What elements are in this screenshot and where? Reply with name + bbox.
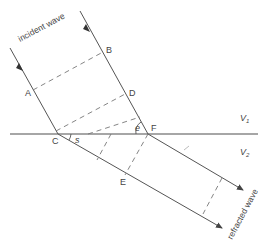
incident-wavefronts: [33, 52, 140, 134]
refracted-ray-lower: [58, 134, 222, 228]
refracted-wave-label: refracted wave: [225, 187, 260, 241]
label-f: F: [151, 123, 157, 133]
label-e: E: [120, 177, 126, 187]
incident-wave-label: incident wave: [16, 11, 66, 44]
angle-e-label: e: [135, 123, 140, 133]
velocity-v1-label: V1: [240, 113, 249, 124]
incident-ray-right: [80, 11, 148, 134]
label-d: D: [129, 88, 136, 98]
velocity-v2-label: V2: [240, 147, 250, 158]
arrow-icon: [16, 63, 23, 71]
incident-ray-left: [10, 48, 58, 134]
angle-s-label: s: [75, 135, 80, 145]
refracted-wavefronts: [97, 134, 222, 214]
angle-s-arc: [69, 134, 71, 140]
label-a: A: [25, 88, 31, 98]
refraction-diagram: A B C D E F e s V1 V2 incident wave refr…: [0, 0, 265, 246]
label-c: C: [52, 136, 59, 146]
refracted-ray-upper: [148, 134, 243, 190]
label-b: B: [106, 45, 112, 55]
